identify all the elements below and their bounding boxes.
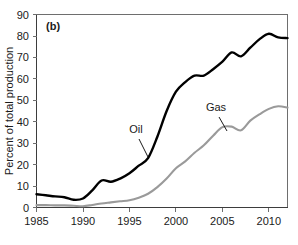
series-label-gas: Gas xyxy=(206,101,227,113)
series-line-oil xyxy=(37,34,288,200)
figure-panel: 90 80 70 60 50 40 30 20 10 0 1985 1990 1… xyxy=(0,0,298,245)
y-tick-label: 60 xyxy=(17,73,29,85)
x-tick-label: 1995 xyxy=(117,215,141,227)
y-axis-title: Percent of total production xyxy=(3,47,15,175)
x-tick-label: 1985 xyxy=(24,215,48,227)
x-tick-label: 2005 xyxy=(210,215,234,227)
y-tick-label: 40 xyxy=(17,116,29,128)
y-tick-label: 20 xyxy=(17,159,29,171)
y-tick-label: 0 xyxy=(23,202,29,214)
y-tick-marks xyxy=(33,15,37,208)
x-tick-marks xyxy=(37,208,269,212)
x-tick-label: 2010 xyxy=(257,215,281,227)
plot-frame xyxy=(37,15,288,208)
y-tick-label: 30 xyxy=(17,137,29,149)
y-tick-labels: 90 80 70 60 50 40 30 20 10 0 xyxy=(17,9,29,214)
y-tick-label: 80 xyxy=(17,30,29,42)
x-tick-label: 1990 xyxy=(71,215,95,227)
y-tick-label: 50 xyxy=(17,94,29,106)
y-tick-label: 10 xyxy=(17,180,29,192)
x-tick-label: 2000 xyxy=(164,215,188,227)
series-layer xyxy=(37,34,288,206)
annotation-labels: Oil Gas xyxy=(129,101,226,135)
y-tick-label: 70 xyxy=(17,51,29,63)
oil-leader-line xyxy=(139,139,148,157)
series-label-oil: Oil xyxy=(129,123,142,135)
y-tick-label: 90 xyxy=(17,9,29,21)
x-tick-labels: 1985 1990 1995 2000 2005 2010 xyxy=(24,215,281,227)
line-chart: 90 80 70 60 50 40 30 20 10 0 1985 1990 1… xyxy=(0,0,298,245)
panel-label: (b) xyxy=(46,20,60,32)
